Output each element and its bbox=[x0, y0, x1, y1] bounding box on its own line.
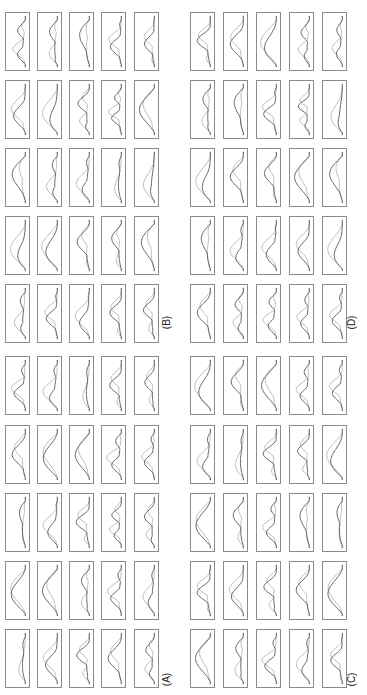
light-trace bbox=[299, 152, 310, 203]
subplot bbox=[134, 561, 159, 620]
subplot bbox=[223, 493, 248, 552]
light-trace bbox=[300, 84, 309, 135]
light-trace bbox=[143, 152, 154, 203]
panel-label-a: (A) bbox=[161, 673, 172, 686]
light-trace bbox=[43, 497, 57, 548]
subplot bbox=[190, 284, 215, 343]
subplot bbox=[5, 356, 30, 415]
subplot bbox=[69, 216, 94, 275]
dark-trace bbox=[143, 288, 154, 339]
subplot bbox=[134, 629, 159, 688]
light-trace bbox=[262, 84, 276, 135]
subplot bbox=[289, 629, 314, 688]
subplot bbox=[289, 12, 314, 71]
subplot bbox=[69, 356, 94, 415]
subplot bbox=[223, 561, 248, 620]
dark-trace bbox=[203, 84, 210, 135]
light-trace bbox=[200, 633, 211, 684]
subplot bbox=[256, 561, 281, 620]
subplot bbox=[37, 148, 62, 207]
panel-label-b: (B) bbox=[161, 316, 172, 329]
dark-trace bbox=[332, 288, 342, 339]
light-trace bbox=[115, 152, 122, 203]
dark-trace bbox=[140, 84, 155, 135]
subplot bbox=[5, 425, 30, 484]
light-trace bbox=[235, 633, 243, 684]
dark-trace bbox=[262, 360, 277, 411]
subplot bbox=[289, 561, 314, 620]
dark-trace bbox=[332, 360, 342, 411]
subplot bbox=[69, 561, 94, 620]
light-trace bbox=[196, 152, 211, 203]
dark-trace bbox=[78, 84, 89, 135]
light-trace bbox=[11, 84, 25, 135]
subplot bbox=[37, 629, 62, 688]
light-trace bbox=[47, 565, 58, 616]
dark-trace bbox=[151, 152, 155, 203]
subplot bbox=[101, 493, 126, 552]
subplot bbox=[322, 493, 347, 552]
dark-trace bbox=[197, 565, 210, 616]
dark-trace bbox=[236, 633, 243, 684]
subplot bbox=[190, 12, 215, 71]
light-trace bbox=[75, 288, 89, 339]
subplot bbox=[101, 629, 126, 688]
light-trace bbox=[80, 84, 90, 135]
subplot bbox=[322, 80, 347, 139]
dark-trace bbox=[50, 16, 58, 67]
subplot bbox=[37, 12, 62, 71]
subplot bbox=[69, 12, 94, 71]
dark-trace bbox=[75, 429, 89, 480]
dark-trace bbox=[43, 565, 58, 616]
light-trace bbox=[202, 84, 210, 135]
subplot bbox=[190, 493, 215, 552]
dark-trace bbox=[295, 152, 310, 203]
subplot bbox=[322, 216, 347, 275]
dark-trace bbox=[265, 16, 277, 67]
subplot bbox=[5, 80, 30, 139]
subplot bbox=[134, 12, 159, 71]
subplot bbox=[256, 12, 281, 71]
dark-trace bbox=[141, 220, 154, 271]
subplot bbox=[101, 356, 126, 415]
dark-trace bbox=[199, 360, 211, 411]
dark-trace bbox=[235, 288, 243, 339]
subplot bbox=[69, 425, 94, 484]
dark-trace bbox=[338, 84, 342, 135]
dark-trace bbox=[300, 497, 309, 548]
subplot bbox=[5, 629, 30, 688]
subplot bbox=[289, 425, 314, 484]
subplot bbox=[5, 216, 30, 275]
light-trace bbox=[229, 565, 243, 616]
dark-trace bbox=[264, 152, 276, 203]
subplot bbox=[5, 12, 30, 71]
subplot bbox=[134, 356, 159, 415]
subplot bbox=[134, 148, 159, 207]
dark-trace bbox=[298, 429, 310, 480]
subplot bbox=[101, 425, 126, 484]
subplot bbox=[256, 80, 281, 139]
light-trace bbox=[261, 16, 277, 67]
subplot bbox=[289, 493, 314, 552]
subplot bbox=[101, 216, 126, 275]
subplot bbox=[190, 80, 215, 139]
subplot bbox=[190, 561, 215, 620]
dark-trace bbox=[330, 152, 343, 203]
subplot bbox=[69, 284, 94, 343]
dark-trace bbox=[46, 288, 57, 339]
subplot bbox=[289, 148, 314, 207]
subplot bbox=[223, 216, 248, 275]
subplot bbox=[223, 80, 248, 139]
subplot bbox=[190, 425, 215, 484]
light-trace bbox=[11, 565, 26, 616]
panel-label-d: (D) bbox=[346, 316, 357, 330]
subplot bbox=[134, 493, 159, 552]
subplot bbox=[256, 216, 281, 275]
subplot bbox=[322, 284, 347, 343]
subplot bbox=[134, 425, 159, 484]
subplot bbox=[101, 80, 126, 139]
dark-trace bbox=[146, 633, 154, 684]
dark-trace bbox=[230, 152, 243, 203]
subplot bbox=[101, 284, 126, 343]
dark-trace bbox=[18, 16, 26, 67]
